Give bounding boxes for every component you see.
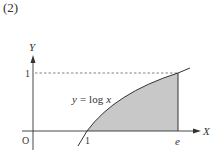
curve-label: y=logx [71,93,111,105]
y-axis-arrow-icon [31,55,36,63]
x-axis-arrow-icon [193,129,201,134]
log-area-diagram: (2) Y 1 O 1 e X y=logx [0,0,216,151]
x-tick-one: 1 [85,135,90,146]
curve-label-log: log [89,93,104,105]
curve-label-x: x [105,93,111,105]
y-tick-one: 1 [25,68,30,79]
x-tick-e: e [175,135,180,147]
curve-label-equals: = [80,93,86,105]
y-axis-label: Y [29,41,37,53]
origin-label: O [22,135,29,146]
problem-number: (2) [3,0,18,15]
curve-label-y: y [71,93,77,105]
x-axis-label: X [202,125,211,137]
